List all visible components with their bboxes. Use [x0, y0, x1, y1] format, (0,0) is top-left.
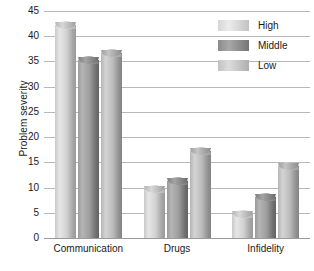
y-axis-title: Problem severity	[18, 49, 29, 189]
x-axis-label: Drugs	[164, 243, 191, 254]
bar	[78, 56, 99, 238]
bar	[255, 193, 276, 238]
y-tick-label: 35	[28, 56, 39, 66]
bar-body	[278, 166, 299, 238]
bar	[101, 49, 122, 238]
legend-label: High	[258, 20, 279, 31]
y-tick-label: 5	[33, 208, 39, 218]
legend: HighMiddleLow	[218, 16, 310, 76]
bar	[167, 177, 188, 238]
bar-chart: Problem severity 051015202530354045 Comm…	[0, 0, 314, 271]
bar-body	[144, 189, 165, 238]
y-tick-label: 45	[28, 6, 39, 16]
bar-body	[55, 25, 76, 238]
y-tick-label: 30	[28, 82, 39, 92]
y-tick-label: 20	[28, 132, 39, 142]
y-tick-label: 10	[28, 183, 39, 193]
y-tick-label: 25	[28, 107, 39, 117]
x-axis-label: Infidelity	[247, 243, 284, 254]
gridline: 0	[44, 238, 310, 239]
bar-body	[78, 60, 99, 238]
legend-item: Low	[218, 56, 310, 74]
bar-body	[190, 151, 211, 238]
bar-body	[255, 197, 276, 238]
y-tick-label: 40	[28, 31, 39, 41]
legend-swatch	[218, 60, 249, 71]
bar-body	[167, 181, 188, 238]
y-tick-label: 0	[33, 233, 39, 243]
y-tick-label: 15	[28, 157, 39, 167]
x-axis-label: Communication	[54, 243, 123, 254]
bar	[190, 147, 211, 238]
legend-swatch	[218, 40, 249, 51]
bar	[55, 21, 76, 238]
bar	[278, 162, 299, 238]
legend-item: Middle	[218, 36, 310, 54]
bar	[232, 210, 253, 238]
legend-label: Low	[258, 60, 276, 71]
bar-body	[101, 53, 122, 238]
legend-swatch	[218, 20, 249, 31]
legend-item: High	[218, 16, 310, 34]
legend-label: Middle	[258, 40, 287, 51]
bar	[144, 185, 165, 238]
